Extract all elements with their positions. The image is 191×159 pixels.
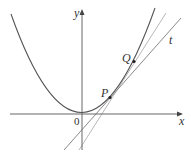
point-p [108, 96, 111, 99]
point-q-label: Q [122, 51, 131, 65]
secant-line [79, 13, 166, 150]
point-p-label: P [100, 86, 109, 100]
y-axis-label: y [73, 6, 80, 20]
tangent-line-label: t [169, 33, 173, 47]
x-axis-label: x [178, 114, 185, 128]
diagram-canvas: y x 0 P Q t [0, 0, 191, 159]
point-q [132, 60, 135, 63]
y-axis-arrow-icon [80, 9, 85, 15]
origin-label: 0 [74, 115, 80, 127]
